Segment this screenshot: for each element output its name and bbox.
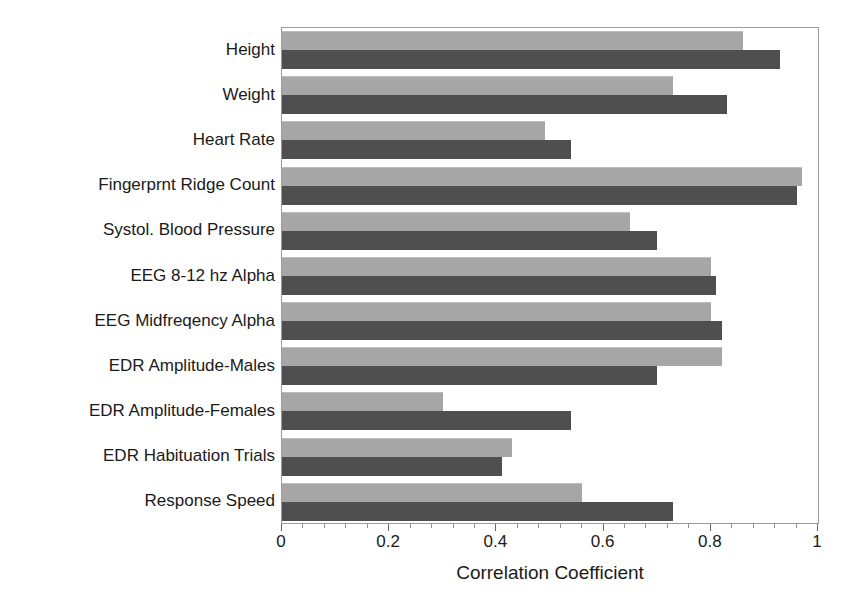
- x-minor-tick-mark: [367, 524, 368, 528]
- bar-group: [282, 438, 818, 477]
- bar-light: [282, 347, 722, 366]
- y-axis-tick-label: Weight: [5, 85, 281, 104]
- x-minor-tick-mark: [667, 524, 668, 528]
- bar-dark: [282, 50, 780, 69]
- bar-group: [282, 212, 818, 251]
- x-tick-mark: [603, 524, 604, 531]
- x-minor-tick-mark: [517, 524, 518, 528]
- bar-light: [282, 167, 802, 186]
- x-minor-tick-mark: [302, 524, 303, 528]
- plot-area: [281, 27, 819, 524]
- x-minor-tick-mark: [431, 524, 432, 528]
- y-axis-tick-label: Fingerprnt Ridge Count: [5, 175, 281, 194]
- x-axis-title: Correlation Coefficient: [281, 562, 819, 584]
- x-minor-tick-mark: [645, 524, 646, 528]
- y-axis-tick-label: EDR Habituation Trials: [5, 446, 281, 465]
- x-minor-tick-mark: [474, 524, 475, 528]
- bar-dark: [282, 321, 722, 340]
- x-minor-tick-mark: [731, 524, 732, 528]
- x-minor-tick-mark: [774, 524, 775, 528]
- x-tick-label: 0.4: [484, 532, 508, 552]
- x-minor-tick-mark: [453, 524, 454, 528]
- bar-light: [282, 302, 711, 321]
- x-tick-mark: [710, 524, 711, 531]
- x-tick-label: 0.2: [376, 532, 400, 552]
- y-axis-tick-label: Height: [5, 40, 281, 59]
- y-axis-tick-label: Response Speed: [5, 491, 281, 510]
- x-minor-tick-mark: [688, 524, 689, 528]
- bar-group: [282, 121, 818, 160]
- bar-group: [282, 483, 818, 522]
- x-tick-label: 1: [812, 532, 821, 552]
- bar-dark: [282, 457, 502, 476]
- bar-dark: [282, 140, 571, 159]
- y-axis-tick-label: Systol. Blood Pressure: [5, 220, 281, 239]
- x-tick-label: 0.6: [591, 532, 615, 552]
- bar-light: [282, 438, 512, 457]
- x-tick-label: 0.8: [698, 532, 722, 552]
- bar-dark: [282, 411, 571, 430]
- bar-dark: [282, 186, 797, 205]
- x-minor-tick-mark: [624, 524, 625, 528]
- x-axis-ticks: 00.20.40.60.81: [281, 524, 819, 554]
- x-tick-mark: [281, 524, 282, 531]
- y-axis-tick-label: EDR Amplitude-Males: [5, 356, 281, 375]
- x-tick-mark: [495, 524, 496, 531]
- x-tick-label: 0: [276, 532, 285, 552]
- x-minor-tick-mark: [581, 524, 582, 528]
- bar-dark: [282, 95, 727, 114]
- x-minor-tick-mark: [324, 524, 325, 528]
- bar-group: [282, 347, 818, 386]
- bar-group: [282, 302, 818, 341]
- x-minor-tick-mark: [345, 524, 346, 528]
- y-axis-tick-label: Heart Rate: [5, 130, 281, 149]
- bar-dark: [282, 502, 673, 521]
- bar-light: [282, 483, 582, 502]
- bar-group: [282, 392, 818, 431]
- y-axis-tick-label: EDR Amplitude-Females: [5, 401, 281, 420]
- y-axis-labels: HeightWeightHeart RateFingerprnt Ridge C…: [0, 27, 281, 524]
- bar-chart-figure: HeightWeightHeart RateFingerprnt Ridge C…: [0, 0, 867, 613]
- bar-light: [282, 257, 711, 276]
- bar-dark: [282, 366, 657, 385]
- bar-light: [282, 121, 545, 140]
- bar-light: [282, 31, 743, 50]
- x-minor-tick-mark: [410, 524, 411, 528]
- x-tick-mark: [817, 524, 818, 531]
- bar-group: [282, 167, 818, 206]
- x-minor-tick-mark: [538, 524, 539, 528]
- x-tick-mark: [388, 524, 389, 531]
- bar-dark: [282, 276, 716, 295]
- x-minor-tick-mark: [753, 524, 754, 528]
- bar-light: [282, 76, 673, 95]
- bar-light: [282, 392, 443, 411]
- bar-group: [282, 76, 818, 115]
- x-minor-tick-mark: [560, 524, 561, 528]
- y-axis-tick-label: EEG Midfreqency Alpha: [5, 311, 281, 330]
- bar-group: [282, 31, 818, 70]
- bar-group: [282, 257, 818, 296]
- bar-dark: [282, 231, 657, 250]
- x-minor-tick-mark: [796, 524, 797, 528]
- bar-light: [282, 212, 630, 231]
- y-axis-tick-label: EEG 8-12 hz Alpha: [5, 266, 281, 285]
